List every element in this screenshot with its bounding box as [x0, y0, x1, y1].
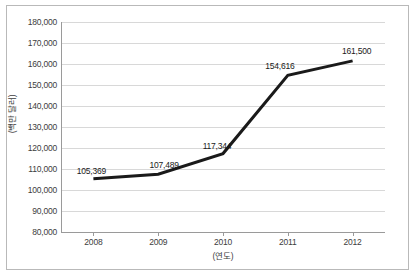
data-point-label: 161,500 [342, 46, 371, 56]
x-tick-mark [158, 232, 159, 236]
y-tick-label: 110,000 [5, 164, 57, 174]
y-tick-label: 180,000 [5, 17, 57, 27]
x-tick-label: 2010 [214, 237, 232, 247]
x-tick-label: 2012 [344, 237, 362, 247]
y-axis-line [61, 22, 62, 233]
x-tick-mark [353, 232, 354, 236]
data-point-label: 117,344 [203, 141, 232, 151]
gridline [61, 211, 385, 212]
data-point-label: 107,489 [150, 160, 179, 170]
x-tick-mark [93, 232, 94, 236]
x-tick-label: 2011 [279, 237, 296, 247]
gridline [61, 22, 385, 23]
y-tick-label: 80,000 [5, 227, 57, 237]
y-axis-title: (백만 달러) [5, 95, 17, 134]
y-tick-label: 160,000 [5, 59, 57, 69]
y-tick-label: 90,000 [5, 206, 57, 216]
data-point-label: 154,616 [265, 61, 294, 71]
y-tick-label: 150,000 [5, 80, 57, 90]
data-point-label: 105,369 [77, 166, 106, 176]
gridline [61, 127, 385, 128]
x-axis-title: (연도) [213, 249, 234, 261]
y-tick-label: 120,000 [5, 143, 57, 153]
x-tick-label: 2009 [149, 237, 167, 247]
gridline [61, 64, 385, 65]
gridline [61, 106, 385, 107]
y-axis-tick-labels: 180,000170,000160,000150,000140,000130,0… [0, 0, 57, 275]
gridline [61, 85, 385, 86]
x-tick-label: 2008 [84, 237, 102, 247]
gridline [61, 190, 385, 191]
gridline [61, 169, 385, 170]
chart-figure: 180,000170,000160,000150,000140,000130,0… [0, 0, 415, 275]
gridline [61, 43, 385, 44]
x-tick-mark [288, 232, 289, 236]
x-tick-mark [223, 232, 224, 236]
plot-area [61, 22, 385, 232]
y-tick-label: 100,000 [5, 185, 57, 195]
y-tick-label: 170,000 [5, 38, 57, 48]
